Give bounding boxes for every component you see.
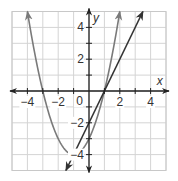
- origin-label: 0: [76, 94, 83, 108]
- axes: [10, 9, 169, 173]
- y-axis-label: y: [92, 11, 100, 25]
- coordinate-graph: −4−22442−2−40xy: [0, 0, 178, 181]
- y-tick-label: −4: [70, 148, 84, 162]
- x-tick-label: 2: [116, 95, 123, 109]
- x-axis-label: x: [156, 74, 164, 88]
- y-tick-label: 2: [77, 52, 84, 66]
- x-tick-label: −2: [51, 95, 65, 109]
- y-tick-label: 4: [77, 20, 84, 34]
- y-tick-label: −2: [70, 116, 84, 130]
- x-tick-label: 4: [147, 95, 154, 109]
- x-tick-label: −4: [21, 95, 35, 109]
